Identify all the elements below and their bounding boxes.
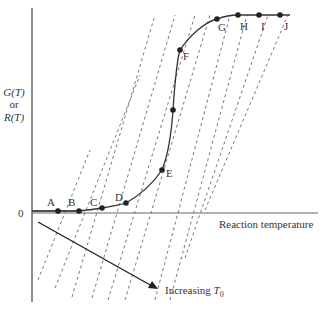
label-a: A [47,196,55,208]
arrow-label: Increasing T0 [165,284,224,299]
diagram-canvas: A B C D E F G H I J G(T) or R(T) 0 React… [0,0,327,311]
dashed-line-j [205,15,288,210]
point-i [256,12,262,18]
label-i: I [261,20,265,32]
origin-label: 0 [18,207,24,219]
point-j [277,12,283,18]
point-e [159,167,165,173]
label-c: C [90,196,97,208]
dashed-line-f [125,15,210,300]
label-g: G [218,21,226,33]
point-b [76,208,82,214]
label-h: H [240,20,248,32]
dashed-line-a [38,150,90,280]
point-f [177,47,183,53]
generation-curve [32,15,290,211]
dashed-line-d [92,15,175,298]
heat-removal-lines [38,15,288,300]
label-d: D [115,191,123,203]
increasing-t0-arrow [38,222,152,286]
x-axis-label: Reaction temperature [219,218,313,230]
label-e: E [166,167,173,179]
y-axis-label-or: or [9,98,19,110]
dashed-line-c [72,15,155,297]
label-j: J [284,20,289,32]
point-c [99,205,105,211]
arrow-label-prefix: Increasing [165,284,214,296]
operating-points [55,12,283,214]
point-d [123,200,129,206]
point-h [235,12,241,18]
point-mid [170,107,176,113]
label-b: B [68,196,75,208]
arrow-label-sub: 0 [220,290,224,299]
y-axis-label-r: R(T) [3,111,25,124]
label-f: F [183,50,189,62]
point-a [55,208,61,214]
